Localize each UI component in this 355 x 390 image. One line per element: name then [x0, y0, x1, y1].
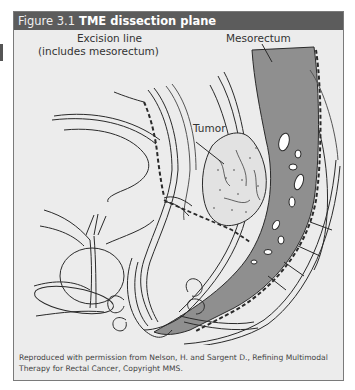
- anatomy-illustration: [14, 30, 343, 345]
- mesorectum-label: Mesorectum: [226, 32, 291, 45]
- tumor-label: Tumor: [193, 122, 225, 135]
- page-edge-marker: [0, 44, 3, 61]
- figure-panel: Figure 3.1TME dissection plane: [13, 11, 344, 381]
- excision-line-label-line1: Excision line: [46, 32, 159, 45]
- tme-anatomy-diagram: Excision line (includes mesorectum) Meso…: [14, 30, 343, 345]
- excision-line-label: Excision line (includes mesorectum): [46, 32, 159, 58]
- excision-line-label-line2: (includes mesorectum): [38, 45, 159, 58]
- figure-caption: Reproduced with permission from Nelson, …: [19, 352, 341, 374]
- figure-header: Figure 3.1TME dissection plane: [14, 12, 343, 30]
- figure-title: TME dissection plane: [79, 14, 216, 28]
- figure-number: Figure 3.1: [18, 14, 75, 28]
